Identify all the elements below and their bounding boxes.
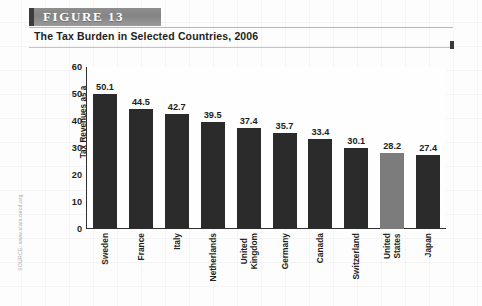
bar-slot: 50.1 bbox=[87, 67, 123, 229]
x-axis-label-line: Canada bbox=[315, 233, 325, 263]
bar-slot: 27.4 bbox=[410, 67, 446, 229]
x-label-slot: France bbox=[123, 233, 159, 299]
figure-subtitle: The Tax Burden in Selected Countries, 20… bbox=[34, 30, 258, 42]
figure-banner-label: FIGURE 13 bbox=[34, 9, 124, 25]
x-label-slot: UnitedKingdom bbox=[231, 233, 267, 299]
x-axis-label-japan: Japan bbox=[423, 233, 433, 257]
x-axis-label-line: Japan bbox=[423, 233, 433, 257]
x-axis-label-switzerland: Switzerland bbox=[351, 233, 361, 280]
y-tick-label: 50 bbox=[36, 89, 82, 99]
bar-canada[interactable] bbox=[308, 139, 332, 229]
bar-slot: 37.4 bbox=[231, 67, 267, 229]
y-tick-label: 10 bbox=[36, 197, 82, 207]
x-axis-label-line: Netherlands bbox=[208, 233, 218, 281]
x-axis-label-line: States bbox=[392, 233, 402, 259]
subtitle-end-tick bbox=[450, 41, 454, 49]
x-axis-label-netherlands: Netherlands bbox=[208, 233, 218, 281]
y-tick-label: 20 bbox=[36, 170, 82, 180]
y-tick-label: 60 bbox=[36, 62, 82, 72]
bar-slot: 39.5 bbox=[195, 67, 231, 229]
bar-switzerland[interactable] bbox=[344, 148, 368, 229]
bar-sweden[interactable] bbox=[93, 94, 117, 229]
x-label-slot: UnitedStates bbox=[374, 233, 410, 299]
figure-banner: FIGURE 13 bbox=[29, 8, 161, 26]
x-label-slot: Sweden bbox=[87, 233, 123, 299]
bar-japan[interactable] bbox=[416, 155, 440, 229]
x-label-slot: Germany bbox=[267, 233, 303, 299]
x-label-slot: Italy bbox=[159, 233, 195, 299]
x-axis-label-line: Germany bbox=[280, 233, 290, 269]
x-label-slot: Netherlands bbox=[195, 233, 231, 299]
x-axis-label-line: Kingdom bbox=[249, 233, 259, 269]
y-tick-label: 30 bbox=[36, 143, 82, 153]
x-label-slot: Switzerland bbox=[338, 233, 374, 299]
bar-series: 50.144.542.739.537.435.733.430.128.227.4 bbox=[87, 67, 446, 229]
bar-slot: 42.7 bbox=[159, 67, 195, 229]
x-axis-label-line: United bbox=[239, 233, 249, 269]
x-axis-label-united-states: UnitedStates bbox=[382, 233, 402, 259]
x-axis-label-line: Sweden bbox=[100, 233, 110, 265]
bar-germany[interactable] bbox=[273, 133, 297, 229]
x-axis-label-canada: Canada bbox=[315, 233, 325, 263]
x-axis-label-line: Italy bbox=[172, 233, 182, 250]
x-axis-label-germany: Germany bbox=[280, 233, 290, 269]
y-tick-label: 40 bbox=[36, 116, 82, 126]
bar-value-label: 27.4 bbox=[405, 143, 451, 153]
x-axis-label-sweden: Sweden bbox=[100, 233, 110, 265]
bar-slot: 44.5 bbox=[123, 67, 159, 229]
x-axis-label-france: France bbox=[136, 233, 146, 260]
x-label-slot: Japan bbox=[410, 233, 446, 299]
bar-slot: 33.4 bbox=[302, 67, 338, 229]
bar-united-kingdom[interactable] bbox=[237, 128, 261, 229]
figure-page: FIGURE 13 The Tax Burden in Selected Cou… bbox=[0, 0, 482, 306]
bar-italy[interactable] bbox=[165, 114, 189, 229]
x-axis-label-line: United bbox=[382, 233, 392, 259]
bar-netherlands[interactable] bbox=[201, 122, 225, 229]
y-tick-label: 0 bbox=[36, 224, 82, 234]
subtitle-rule-top bbox=[29, 27, 453, 28]
x-label-slot: Canada bbox=[302, 233, 338, 299]
bar-slot: 35.7 bbox=[267, 67, 303, 229]
x-axis-label-italy: Italy bbox=[172, 233, 182, 250]
source-note: SOURCE: www.stats.oecd.org bbox=[17, 159, 23, 271]
bar-united-states[interactable] bbox=[380, 153, 404, 229]
bar-france[interactable] bbox=[129, 109, 153, 229]
x-axis-labels: SwedenFranceItalyNetherlandsUnitedKingdo… bbox=[87, 233, 446, 299]
bar-chart: Tax Revenues as aPercentage of GDP 01020… bbox=[33, 55, 453, 300]
x-axis-label-united-kingdom: UnitedKingdom bbox=[239, 233, 259, 269]
y-axis-ticks: 0102030405060 bbox=[33, 55, 82, 241]
x-axis-label-line: France bbox=[136, 233, 146, 260]
bar-value-label: 50.1 bbox=[82, 82, 128, 92]
x-axis-label-line: Switzerland bbox=[351, 233, 361, 280]
